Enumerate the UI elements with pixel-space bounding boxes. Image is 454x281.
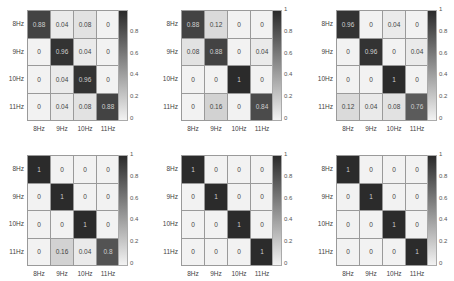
matrix-cell: 0 (228, 11, 250, 38)
matrix-cell: 0 (337, 39, 359, 66)
row-label: 10Hz (2, 220, 24, 227)
matrix-cell: 1 (74, 211, 96, 238)
matrix-cell: 0.04 (383, 11, 405, 38)
row-label: 9Hz (311, 48, 333, 55)
matrix-cell: 1 (182, 156, 204, 183)
row-label: 9Hz (2, 48, 24, 55)
matrix-cell: 0 (383, 156, 405, 183)
row-label: 10Hz (2, 75, 24, 82)
colorbar-tick-label: 0.8 (284, 28, 292, 34)
colorbar-tick-label: 0.8 (130, 173, 138, 179)
matrix-cell: 0 (97, 66, 119, 93)
matrix-cell: 0.12 (205, 11, 227, 38)
matrix-cell: 0 (182, 94, 204, 121)
matrix-cell: 0.04 (251, 39, 273, 66)
colorbar-tick-label: 0.6 (130, 50, 138, 56)
matrix-cell: 0 (383, 239, 405, 266)
colorbar-tick-label: 0 (439, 260, 442, 266)
matrix-cell: 0 (228, 239, 250, 266)
matrix-cell: 0 (228, 39, 250, 66)
matrix-cell: 0 (182, 239, 204, 266)
colorbar-tick-label: 1 (284, 151, 287, 157)
column-label: 11Hz (406, 125, 428, 132)
colorbar (427, 155, 437, 266)
colorbar-tick-label: 0.6 (284, 195, 292, 201)
matrix-cell: 0 (97, 184, 119, 211)
matrix-cell: 0.16 (51, 239, 73, 266)
matrix-cell: 0.04 (51, 66, 73, 93)
column-label: 10Hz (383, 125, 405, 132)
colorbar-tick-label: 0.2 (284, 238, 292, 244)
matrix-cell: 0.04 (74, 239, 96, 266)
matrix-cell: 0 (251, 184, 273, 211)
column-label: 8Hz (28, 125, 50, 132)
matrix-cell: 1 (383, 66, 405, 93)
row-label: 10Hz (156, 75, 178, 82)
matrix-cell: 0 (360, 66, 382, 93)
matrix-cell: 0.8 (97, 239, 119, 266)
confusion-matrix-3: 0.9600.04000.9600.0400100.120.040.080.76 (336, 10, 429, 121)
matrix-cell: 1 (406, 239, 428, 266)
matrix-cell: 0 (182, 184, 204, 211)
colorbar-tick-label: 0.8 (284, 173, 292, 179)
colorbar-tick-label: 0.6 (439, 50, 447, 56)
matrix-cell: 0 (28, 184, 50, 211)
colorbar (272, 155, 282, 266)
matrix-cell: 0.96 (51, 39, 73, 66)
matrix-cell: 0 (360, 156, 382, 183)
matrix-cell: 0 (97, 11, 119, 38)
colorbar (118, 155, 128, 266)
matrix-cell: 0 (228, 184, 250, 211)
matrix-cell: 0 (74, 156, 96, 183)
colorbar-tick-label: 0.4 (439, 71, 447, 77)
colorbar-tick-label: 0.4 (284, 71, 292, 77)
colorbar-tick-label: 0.4 (130, 216, 138, 222)
matrix-cell: 0.16 (205, 94, 227, 121)
row-label: 11Hz (2, 248, 24, 255)
matrix-cell: 1 (51, 184, 73, 211)
matrix-cell: 0.88 (205, 39, 227, 66)
colorbar-tick-label: 1 (439, 151, 442, 157)
matrix-cell: 0 (406, 156, 428, 183)
confusion-matrix-2: 0.880.12000.080.8800.04001000.1600.84 (181, 10, 274, 121)
matrix-cell: 0 (97, 39, 119, 66)
column-label: 11Hz (251, 270, 273, 277)
column-label: 11Hz (97, 125, 119, 132)
colorbar-tick-label: 0.4 (130, 71, 138, 77)
matrix-cell: 0 (251, 156, 273, 183)
column-label: 8Hz (337, 270, 359, 277)
matrix-cell: 0 (74, 184, 96, 211)
column-label: 10Hz (228, 270, 250, 277)
matrix-cell: 0.88 (28, 11, 50, 38)
matrix-cell: 0.96 (337, 11, 359, 38)
colorbar-tick-label: 0.2 (439, 238, 447, 244)
row-label: 9Hz (311, 193, 333, 200)
row-label: 8Hz (2, 165, 24, 172)
column-label: 9Hz (205, 270, 227, 277)
matrix-cell: 0 (205, 239, 227, 266)
matrix-cell: 0 (383, 39, 405, 66)
matrix-cell: 0.04 (51, 11, 73, 38)
row-label: 9Hz (156, 193, 178, 200)
row-label: 11Hz (2, 103, 24, 110)
row-label: 8Hz (311, 20, 333, 27)
column-label: 11Hz (251, 125, 273, 132)
matrix-cell: 0.88 (182, 11, 204, 38)
matrix-cell: 0.96 (360, 39, 382, 66)
confusion-matrix-4: 10000100001000.160.040.8 (27, 155, 120, 266)
colorbar-tick-label: 0.6 (439, 195, 447, 201)
matrix-cell: 0 (182, 211, 204, 238)
matrix-cell: 0.08 (383, 94, 405, 121)
matrix-cell: 0.76 (406, 94, 428, 121)
colorbar-tick-label: 0.2 (439, 93, 447, 99)
colorbar-tick-label: 1 (439, 6, 442, 12)
matrix-cell: 1 (337, 156, 359, 183)
matrix-cell: 1 (383, 211, 405, 238)
row-label: 8Hz (311, 165, 333, 172)
matrix-cell: 0 (360, 11, 382, 38)
colorbar-tick-label: 0.2 (284, 93, 292, 99)
matrix-cell: 0 (406, 184, 428, 211)
matrix-cell: 1 (360, 184, 382, 211)
row-label: 10Hz (311, 220, 333, 227)
colorbar-tick-label: 0 (130, 260, 133, 266)
